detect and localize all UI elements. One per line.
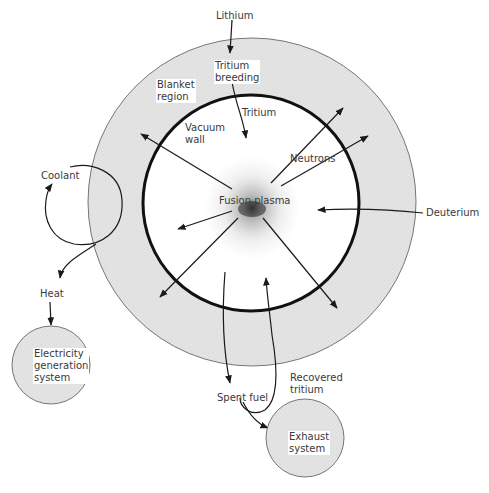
- tritium-breeding-label: Tritium breeding: [214, 60, 260, 84]
- vacuum-wall-label: Vacuum wall: [185, 122, 225, 146]
- blanket-region-label: Blanket region: [156, 79, 196, 103]
- electricity-generation-label: Electricity generation system: [33, 348, 89, 384]
- tritium-label: Tritium: [242, 107, 276, 119]
- deuterium-label: Deuterium: [426, 207, 479, 219]
- exhaust-system-label: Exhaust system: [288, 431, 330, 455]
- heat-arrow: [60, 244, 96, 278]
- neutrons-label: Neutrons: [290, 153, 335, 165]
- fusion-plasma-label: Fusion plasma: [219, 195, 291, 207]
- spent-fuel-label: Spent fuel: [217, 392, 268, 404]
- heat-label: Heat: [40, 288, 64, 300]
- coolant-label: Coolant: [41, 170, 79, 182]
- heat-to-electricity-arrow: [50, 302, 51, 325]
- recovered-tritium-label: Recovered tritium: [290, 372, 343, 396]
- lithium-label: Lithium: [216, 10, 253, 22]
- fusion-plasma-cloud: [204, 156, 300, 260]
- spent-fuel-to-exhaust-arrow: [243, 402, 268, 428]
